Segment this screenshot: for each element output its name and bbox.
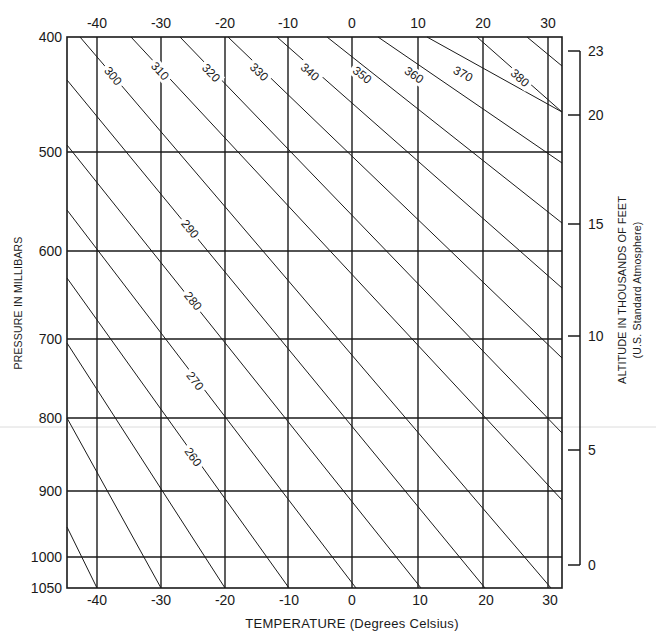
bottom-temperature-tick-label: -40 (87, 592, 107, 608)
top-temperature-tick-label: -30 (151, 15, 171, 31)
bottom-temperature-tick-label: 0 (348, 592, 356, 608)
dry-adiabat-line (327, 37, 562, 223)
pressure-tick-label: 600 (39, 243, 63, 259)
pressure-tick-label: 700 (39, 331, 63, 347)
top-temperature-tick-label: 10 (410, 15, 426, 31)
bottom-temperature-ticks: -40-30-20-100102030 (87, 592, 558, 608)
pressure-ticks: 40050060070080090010001050 (31, 29, 62, 596)
altitude-axis: 2320151050 (568, 43, 604, 573)
dry-adiabat-line (80, 37, 551, 588)
y2-axis-title: ALTITUDE IN THOUSANDS OF FEET (616, 196, 628, 384)
altitude-tick-label: 15 (588, 216, 604, 232)
bottom-temperature-tick-label: 10 (412, 592, 428, 608)
altitude-tick-label: 5 (588, 442, 596, 458)
dry-adiabat-line (67, 80, 485, 588)
dry-adiabat-line (67, 145, 421, 588)
y-axis-title: PRESSURE IN MILLIBARS (12, 236, 24, 369)
dry-adiabat-line (180, 37, 562, 433)
pressure-tick-label: 1050 (31, 580, 62, 596)
altitude-tick-label: 10 (588, 328, 604, 344)
top-temperature-tick-label: -10 (278, 15, 298, 31)
altitude-tick-label: 23 (588, 43, 604, 59)
pressure-tick-label: 800 (39, 410, 63, 426)
dry-adiabat-line (427, 37, 562, 112)
dry-adiabats: 260270280290300310320330340350360370380 (67, 37, 562, 588)
pressure-tick-label: 1000 (31, 549, 62, 565)
pressure-tick-label: 900 (39, 483, 63, 499)
dry-adiabat-line (67, 418, 161, 588)
y2-axis-subtitle: (U.S. Standard Atmosphere) (631, 221, 643, 358)
bottom-temperature-tick-label: -10 (279, 592, 299, 608)
skew-t-diagram: 260270280290300310320330340350360370380 … (0, 0, 656, 636)
altitude-tick-label: 20 (588, 107, 604, 123)
top-temperature-tick-label: -20 (215, 15, 235, 31)
pressure-tick-label: 400 (39, 29, 63, 45)
top-temperature-tick-label: -40 (87, 15, 107, 31)
x-axis-title: TEMPERATURE (Degrees Celsius) (245, 616, 459, 631)
bottom-temperature-tick-label: 30 (542, 592, 558, 608)
top-temperature-tick-label: 20 (475, 15, 491, 31)
top-temperature-tick-label: 0 (348, 15, 356, 31)
top-temperature-tick-label: 30 (540, 15, 556, 31)
bottom-temperature-tick-label: -20 (215, 592, 235, 608)
dry-adiabat-line (67, 210, 356, 588)
top-temperature-ticks: -40-30-20-100102030 (87, 15, 556, 31)
pressure-tick-label: 500 (39, 144, 63, 160)
bottom-temperature-tick-label: 20 (478, 592, 494, 608)
dry-adiabat-line (67, 278, 289, 588)
dry-adiabat-line (131, 37, 562, 500)
dry-adiabat-line (527, 37, 562, 66)
dry-adiabat-line (228, 37, 562, 358)
dry-adiabat-line (378, 37, 562, 163)
altitude-tick-label: 0 (588, 557, 596, 573)
bottom-temperature-tick-label: -30 (151, 592, 171, 608)
